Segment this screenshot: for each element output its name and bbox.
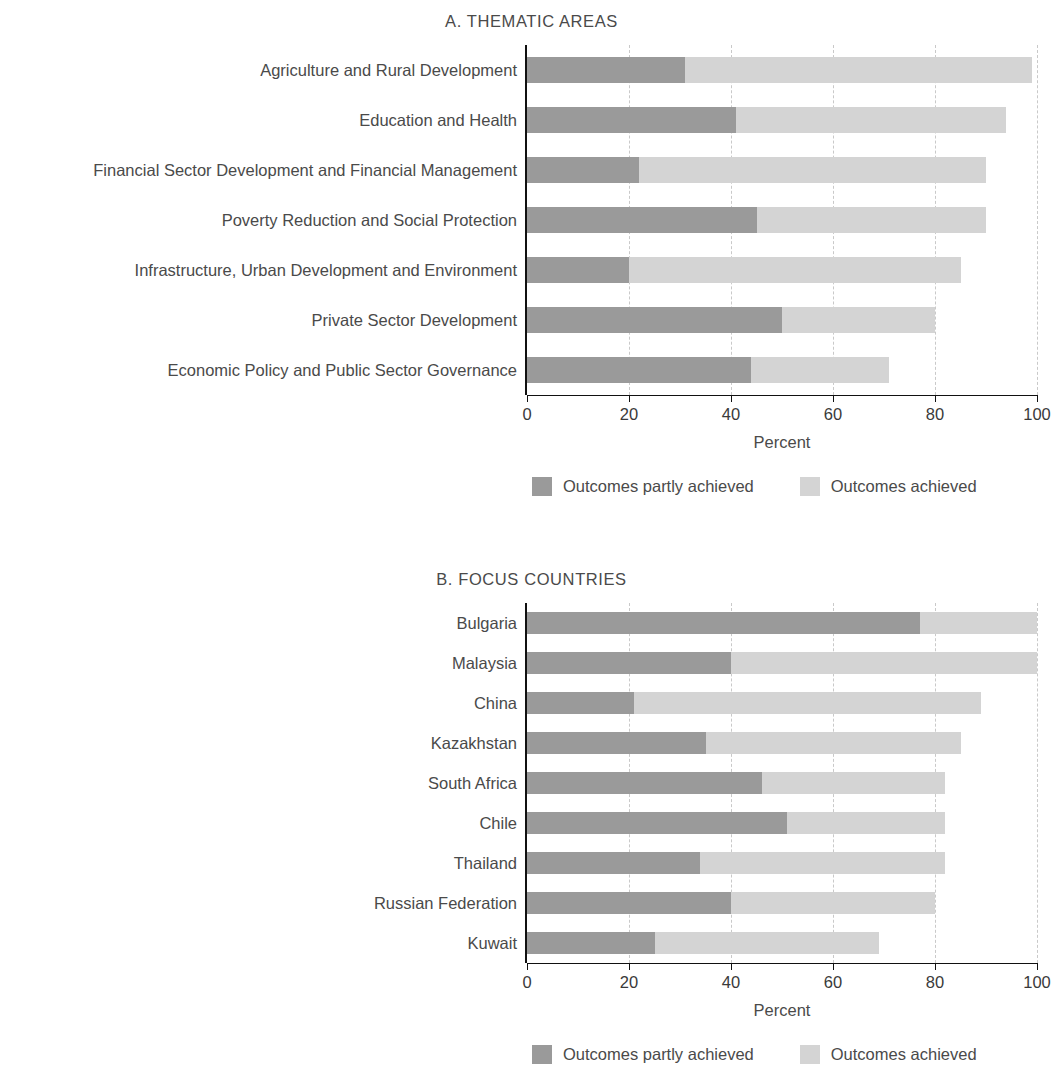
category-label: Infrastructure, Urban Development and En… (135, 262, 527, 279)
x-axis-tick (527, 395, 528, 402)
legend-label-achieved: Outcomes achieved (831, 1045, 977, 1064)
bar-row: South Africa (527, 763, 1037, 803)
x-axis-tick (833, 963, 834, 970)
bar-row: Infrastructure, Urban Development and En… (527, 245, 1037, 295)
bar-row: Kazakhstan (527, 723, 1037, 763)
bar-segment-achieved (731, 892, 935, 914)
x-axis-tick (935, 963, 936, 970)
panel-a-title: A. THEMATIC AREAS (0, 0, 1063, 31)
y-axis-spine (525, 603, 527, 963)
x-axis-tick-label: 40 (722, 973, 740, 992)
category-label: Kazakhstan (431, 735, 527, 752)
category-label: Private Sector Development (312, 312, 527, 329)
category-label: Chile (479, 815, 527, 832)
gridline (1037, 603, 1039, 963)
plot-area-thematic-areas: Agriculture and Rural DevelopmentEducati… (0, 45, 1063, 396)
x-axis-tick-label: 0 (522, 405, 531, 424)
bar-segment-achieved (706, 732, 961, 754)
bar-segment-partly-achieved (527, 357, 751, 383)
bar-segment-partly-achieved (527, 612, 920, 634)
category-label: Bulgaria (456, 615, 527, 632)
bar-segment-achieved (634, 692, 981, 714)
legend-item-achieved: Outcomes achieved (800, 477, 977, 496)
plot-area-focus-countries: BulgariaMalaysiaChinaKazakhstanSouth Afr… (0, 603, 1063, 964)
x-axis-tick (1037, 963, 1038, 970)
bar-segment-achieved (782, 307, 935, 333)
category-label: Financial Sector Development and Financi… (93, 162, 527, 179)
category-label: Education and Health (359, 112, 527, 129)
bar-segment-achieved (751, 357, 889, 383)
bar-segment-partly-achieved (527, 107, 736, 133)
bar-segment-achieved (736, 107, 1006, 133)
bar-row: Poverty Reduction and Social Protection (527, 195, 1037, 245)
category-label: Agriculture and Rural Development (260, 62, 527, 79)
bar-segment-partly-achieved (527, 652, 731, 674)
x-axis-tick-label: 80 (926, 405, 944, 424)
legend-item-achieved: Outcomes achieved (800, 1045, 977, 1064)
x-axis: 020406080100 (527, 963, 1037, 964)
bar-row: Agriculture and Rural Development (527, 45, 1037, 95)
legend: Outcomes partly achieved Outcomes achiev… (532, 477, 977, 496)
bar-row: Kuwait (527, 923, 1037, 963)
bar-segment-partly-achieved (527, 157, 639, 183)
legend: Outcomes partly achieved Outcomes achiev… (532, 1045, 977, 1064)
legend-label-achieved: Outcomes achieved (831, 477, 977, 496)
bar-segment-achieved (655, 932, 879, 954)
bar-segment-achieved (639, 157, 986, 183)
bar-segment-achieved (685, 57, 1032, 83)
legend-swatch-achieved (800, 477, 820, 496)
x-axis-tick (935, 395, 936, 402)
bar-segment-partly-achieved (527, 732, 706, 754)
x-axis-tick (833, 395, 834, 402)
legend-swatch-partly-achieved (532, 1045, 552, 1064)
category-label: Poverty Reduction and Social Protection (222, 212, 527, 229)
legend-item-partly-achieved: Outcomes partly achieved (532, 1045, 754, 1064)
stacked-bar (527, 307, 935, 333)
bar-row: China (527, 683, 1037, 723)
stacked-bar (527, 852, 945, 874)
bar-row: Education and Health (527, 95, 1037, 145)
panel-focus-countries: B. FOCUS COUNTRIES BulgariaMalaysiaChina… (0, 558, 1063, 1072)
stacked-bar (527, 652, 1037, 674)
stacked-bar (527, 207, 986, 233)
category-label: South Africa (428, 775, 527, 792)
stacked-bar (527, 692, 981, 714)
bar-segment-partly-achieved (527, 257, 629, 283)
bar-rows: Agriculture and Rural DevelopmentEducati… (527, 45, 1037, 395)
panel-thematic-areas: A. THEMATIC AREAS Agriculture and Rural … (0, 0, 1063, 545)
bar-row: Malaysia (527, 643, 1037, 683)
bar-segment-achieved (787, 812, 945, 834)
x-axis-tick (629, 963, 630, 970)
x-axis-tick-label: 20 (620, 405, 638, 424)
bar-segment-achieved (757, 207, 987, 233)
x-axis-tick-label: 40 (722, 405, 740, 424)
stacked-bar (527, 257, 961, 283)
bar-row: Chile (527, 803, 1037, 843)
category-label: Malaysia (452, 655, 527, 672)
x-axis-tick (1037, 395, 1038, 402)
bar-rows: BulgariaMalaysiaChinaKazakhstanSouth Afr… (527, 603, 1037, 963)
x-axis: 020406080100 (527, 395, 1037, 396)
category-label: Russian Federation (374, 895, 527, 912)
bar-segment-achieved (700, 852, 945, 874)
category-label: Economic Policy and Public Sector Govern… (168, 362, 527, 379)
x-axis-tick-label: 60 (824, 405, 842, 424)
y-axis-spine (525, 45, 527, 395)
category-label: Thailand (454, 855, 527, 872)
legend-label-partly-achieved: Outcomes partly achieved (563, 477, 754, 496)
x-axis-tick (527, 963, 528, 970)
stacked-bar (527, 157, 986, 183)
bar-segment-partly-achieved (527, 772, 762, 794)
x-axis-title: Percent (527, 1001, 1037, 1020)
x-axis-tick-label: 80 (926, 973, 944, 992)
legend-swatch-partly-achieved (532, 477, 552, 496)
bar-segment-achieved (629, 257, 961, 283)
bar-row: Economic Policy and Public Sector Govern… (527, 345, 1037, 395)
bar-segment-partly-achieved (527, 692, 634, 714)
bar-segment-partly-achieved (527, 932, 655, 954)
stacked-bar (527, 812, 945, 834)
bar-segment-partly-achieved (527, 852, 700, 874)
legend-label-partly-achieved: Outcomes partly achieved (563, 1045, 754, 1064)
stacked-bar (527, 612, 1037, 634)
bar-segment-partly-achieved (527, 812, 787, 834)
